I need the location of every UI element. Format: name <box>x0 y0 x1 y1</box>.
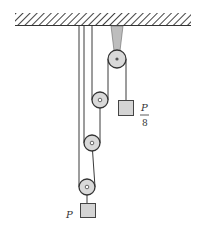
movable-pulley-1 <box>92 92 108 108</box>
movable-pulley-3 <box>79 179 95 195</box>
ceiling <box>15 13 191 26</box>
effort-label-numerator: P <box>140 102 148 113</box>
movable-pulley-2 <box>84 135 100 151</box>
pulley-diagram: P 8 P <box>0 0 202 237</box>
load-label: P <box>65 209 73 220</box>
effort-label-denominator: 8 <box>142 118 148 128</box>
effort-weight-box <box>119 101 134 116</box>
load-weight-box <box>81 204 96 218</box>
fixed-pulley <box>108 50 126 68</box>
